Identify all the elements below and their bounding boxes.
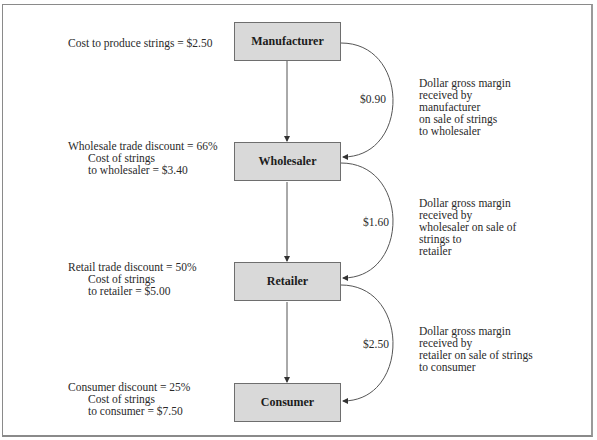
margin-note-wholesaler: Dollar gross margin received by wholesal… bbox=[419, 197, 516, 257]
note-line: Cost of strings bbox=[68, 152, 218, 164]
note-line: Dollar gross margin bbox=[419, 77, 511, 89]
note-line: to retailer = $5.00 bbox=[68, 285, 196, 297]
node-retailer: Retailer bbox=[234, 262, 341, 301]
note-line: to wholesaler = $3.40 bbox=[68, 164, 218, 176]
node-label: Wholesaler bbox=[259, 154, 317, 169]
node-consumer: Consumer bbox=[234, 383, 341, 422]
node-label: Retailer bbox=[267, 274, 308, 289]
note-line: to consumer bbox=[419, 361, 533, 373]
note-line: retailer on sale of strings bbox=[419, 349, 533, 361]
note-consumer-discount: Consumer discount = 25% Cost of strings … bbox=[68, 381, 190, 417]
note-retail-discount: Retail trade discount = 50% Cost of stri… bbox=[68, 261, 196, 297]
margin-amount-wholesaler: $1.60 bbox=[363, 216, 389, 228]
node-label: Manufacturer bbox=[251, 34, 323, 49]
note-line: manufacturer bbox=[419, 101, 511, 113]
note-line: Retail trade discount = 50% bbox=[68, 261, 196, 273]
margin-note-manufacturer: Dollar gross margin received by manufact… bbox=[419, 77, 511, 137]
note-line: received by bbox=[419, 209, 516, 221]
note-line: Dollar gross margin bbox=[419, 197, 516, 209]
note-line: Cost to produce strings = $2.50 bbox=[68, 37, 212, 49]
margin-amount-retailer: $2.50 bbox=[363, 338, 389, 350]
note-line: wholesaler on sale of bbox=[419, 221, 516, 233]
node-manufacturer: Manufacturer bbox=[234, 22, 341, 61]
note-line: strings to bbox=[419, 233, 516, 245]
note-line: to wholesaler bbox=[419, 125, 511, 137]
note-line: received by bbox=[419, 337, 533, 349]
note-line: Wholesale trade discount = 66% bbox=[68, 140, 218, 152]
note-line: Cost of strings bbox=[68, 393, 190, 405]
note-line: to consumer = $7.50 bbox=[68, 405, 190, 417]
margin-note-retailer: Dollar gross margin received by retailer… bbox=[419, 325, 533, 373]
note-production-cost: Cost to produce strings = $2.50 bbox=[68, 37, 212, 49]
note-line: received by bbox=[419, 89, 511, 101]
node-wholesaler: Wholesaler bbox=[234, 142, 341, 181]
note-line: on sale of strings bbox=[419, 113, 511, 125]
note-wholesale-discount: Wholesale trade discount = 66% Cost of s… bbox=[68, 140, 218, 176]
note-line: retailer bbox=[419, 245, 516, 257]
node-label: Consumer bbox=[261, 395, 314, 410]
note-line: Cost of strings bbox=[68, 273, 196, 285]
margin-amount-manufacturer: $0.90 bbox=[360, 93, 386, 105]
note-line: Dollar gross margin bbox=[419, 325, 533, 337]
note-line: Consumer discount = 25% bbox=[68, 381, 190, 393]
